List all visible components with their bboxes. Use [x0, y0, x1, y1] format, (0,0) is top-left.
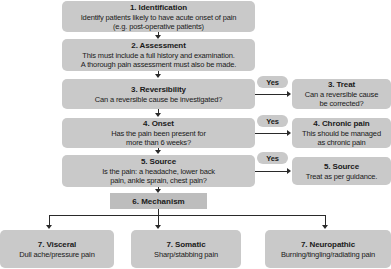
flow-node-identification: 1. Identification Identify patients like… — [62, 1, 255, 32]
arrowhead-to-onset — [155, 113, 161, 117]
flow-node-source: 5. Source Is the pain: a headache, lower… — [62, 155, 255, 187]
node-description: Can a reversible cause be corrected? — [305, 90, 378, 108]
arrowhead-to-neuropathic — [322, 225, 328, 229]
node-title: 5. Source — [324, 162, 359, 172]
node-description-line: A thorough pain assessment must also be … — [81, 60, 236, 69]
flow-node-reversibility: 3. Reversibility Can a reversible cause … — [62, 79, 255, 109]
arrowhead-to-somatic — [155, 225, 161, 229]
node-description-line: be corrected? — [305, 99, 378, 108]
arrowhead-to-assessment — [155, 35, 161, 39]
branch-label-yes-reversibility: Yes — [257, 76, 288, 88]
flow-node-treat: 3. Treat Can a reversible cause be corre… — [292, 79, 391, 109]
connector-onset-to-chronic-pain — [255, 133, 288, 134]
node-title: 1. Identification — [130, 3, 187, 13]
node-description-line: Burning/tingling/radiating pain — [281, 250, 375, 259]
node-description: Dull ache/pressure pain — [19, 250, 94, 259]
node-title: 4. Chronic pain — [313, 119, 369, 129]
flow-node-source-treat: 5. Source Treat as per guidance. — [292, 157, 391, 185]
arrowhead-to-treat — [287, 91, 291, 97]
node-title: 7. Neuropathic — [301, 240, 355, 250]
node-title: 3. Treat — [328, 80, 355, 90]
flow-node-mechanism: 6. Mechanism — [110, 193, 207, 209]
node-description-line: Sharp/stabbing pain — [154, 250, 218, 259]
node-description: Sharp/stabbing pain — [154, 250, 218, 259]
node-description: Burning/tingling/radiating pain — [281, 250, 375, 259]
flow-node-somatic: 7. Somatic Sharp/stabbing pain — [131, 230, 241, 268]
flow-node-visceral: 7. Visceral Dull ache/pressure pain — [0, 230, 114, 268]
arrowhead-to-visceral — [46, 225, 52, 229]
flow-node-assessment: 2. Assessment This must include a full h… — [62, 39, 255, 71]
node-title: 5. Source — [141, 157, 176, 167]
flowchart-canvas: 1. Identification Identify patients like… — [0, 0, 391, 269]
node-description: Identify patients likely to have acute o… — [81, 13, 237, 31]
node-description: Has the pain been present for more than … — [111, 129, 205, 147]
branch-label-yes-source: Yes — [257, 152, 288, 164]
node-description-line: (e.g. post-operative patients) — [81, 22, 237, 31]
arrowhead-to-source — [155, 150, 161, 154]
arrowhead-to-mechanism — [155, 189, 161, 193]
node-description-line: Has the pain been present for — [111, 129, 205, 138]
arrowhead-to-source-treat — [287, 168, 291, 174]
connector-mechanism-bus — [49, 215, 326, 216]
node-description-line: Can a reversible cause — [305, 90, 378, 99]
node-title: 3. Reversibility — [131, 85, 186, 95]
flow-node-onset: 4. Onset Has the pain been present for m… — [62, 118, 255, 148]
node-title: 6. Mechanism — [132, 197, 184, 206]
node-description: Can a reversible cause be investigated? — [95, 95, 223, 104]
node-title: 7. Somatic — [166, 240, 205, 250]
branch-label-yes-onset: Yes — [257, 115, 288, 127]
node-title: 7. Visceral — [38, 240, 76, 250]
node-description-line: Is the pain: a headache, lower back — [102, 167, 215, 176]
node-description: This must include a full history and exa… — [81, 51, 236, 69]
arrowhead-to-reversibility — [155, 74, 161, 78]
node-description: Treat as per guidance. — [306, 172, 377, 181]
node-description-line: Treat as per guidance. — [306, 172, 377, 181]
flow-node-chronic-pain: 4. Chronic pain This should be managed a… — [292, 118, 391, 148]
connector-reversibility-to-treat — [255, 94, 288, 95]
node-title: 4. Onset — [143, 119, 174, 129]
node-title: 2. Assessment — [131, 41, 185, 51]
node-description-line: This must include a full history and exa… — [81, 51, 236, 60]
node-description-line: Identify patients likely to have acute o… — [81, 13, 237, 22]
flow-node-neuropathic: 7. Neuropathic Burning/tingling/radiatin… — [265, 230, 391, 268]
node-description: This should be managed as chronic pain — [302, 129, 381, 147]
node-description-line: This should be managed — [302, 129, 381, 138]
connector-source-to-source-treat — [255, 171, 288, 172]
node-description-line: pain, ankle sprain, chest pain? — [102, 176, 215, 185]
node-description-line: Dull ache/pressure pain — [19, 250, 94, 259]
arrowhead-to-chronic-pain — [287, 130, 291, 136]
node-description-line: Can a reversible cause be investigated? — [95, 95, 223, 104]
node-description: Is the pain: a headache, lower back pain… — [102, 167, 215, 185]
node-description-line: as chronic pain — [302, 138, 381, 147]
node-description-line: more than 6 weeks? — [111, 138, 205, 147]
